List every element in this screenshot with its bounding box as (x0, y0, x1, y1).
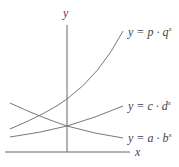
label-p-q-exp: x (168, 25, 171, 33)
label-a-b-exp: x (168, 131, 171, 139)
label-p-q: y = p · qx (128, 25, 172, 40)
label-a-b-base: y = a · b (128, 131, 168, 145)
x-axis-label: x (135, 145, 140, 160)
label-c-d-exp: x (168, 99, 171, 107)
label-a-b: y = a · bx (128, 131, 172, 146)
label-p-q-base: y = p · q (128, 25, 168, 39)
label-c-d: y = c · dx (128, 99, 171, 114)
y-axis-label: y (63, 6, 68, 21)
label-c-d-base: y = c · d (128, 99, 168, 113)
